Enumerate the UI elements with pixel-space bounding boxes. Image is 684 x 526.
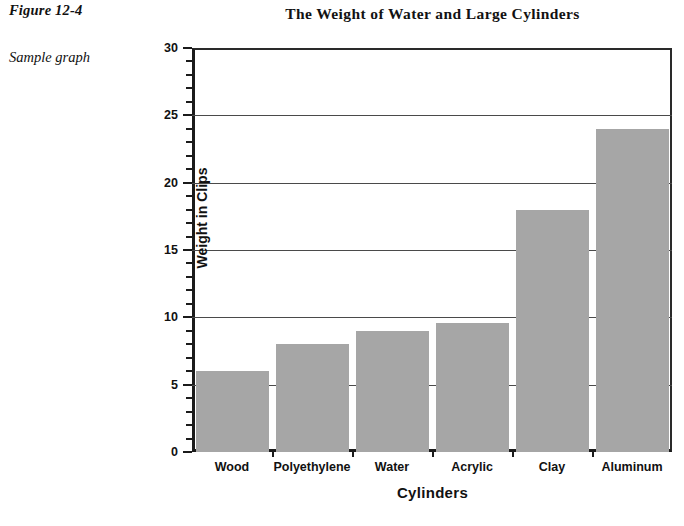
y-axis-minor-tick	[186, 195, 192, 197]
y-axis-minor-tick	[186, 370, 192, 372]
y-axis-minor-tick	[186, 424, 192, 426]
x-axis-tick-label: Acrylic	[451, 460, 493, 474]
gridline	[192, 115, 672, 116]
y-axis-minor-tick	[186, 87, 192, 89]
y-axis-tick	[183, 316, 192, 318]
x-axis-tick-label: Polyethylene	[273, 460, 350, 474]
y-axis-minor-tick	[186, 141, 192, 143]
bar	[436, 323, 509, 452]
sample-graph-note: Sample graph	[9, 49, 90, 66]
bar	[516, 210, 589, 452]
x-axis-tick-label: Wood	[215, 460, 249, 474]
chart-title: The Weight of Water and Large Cylinders	[192, 5, 673, 23]
y-axis-minor-tick	[186, 357, 192, 359]
y-axis-minor-tick	[186, 101, 192, 103]
x-axis-tick	[352, 452, 354, 457]
y-axis-minor-tick	[186, 289, 192, 291]
x-axis-tick	[272, 452, 274, 457]
y-axis-minor-tick	[186, 222, 192, 224]
y-axis-minor-tick	[186, 236, 192, 238]
y-axis-tick-label: 5	[171, 378, 178, 392]
y-axis-minor-tick	[186, 330, 192, 332]
x-axis-tick-label: Clay	[539, 460, 565, 474]
y-axis-tick	[183, 182, 192, 184]
bar-chart: 051015202530 WoodPolyethyleneWaterAcryli…	[192, 48, 672, 452]
y-axis-tick-label: 0	[171, 445, 178, 459]
y-axis-minor-tick	[186, 168, 192, 170]
x-axis-tick-label: Aluminum	[601, 460, 662, 474]
y-axis-minor-tick	[186, 411, 192, 413]
y-axis-tick	[183, 114, 192, 116]
y-axis-minor-tick	[186, 397, 192, 399]
figure-caption: Figure 12-4	[9, 2, 83, 19]
y-axis-tick-label: 25	[164, 108, 178, 122]
y-axis-minor-tick	[186, 303, 192, 305]
y-axis-tick	[183, 249, 192, 251]
y-axis-minor-tick	[186, 438, 192, 440]
x-axis-tick-label: Water	[375, 460, 409, 474]
y-axis-minor-tick	[186, 155, 192, 157]
y-axis-tick-label: 30	[164, 41, 178, 55]
y-axis-minor-tick	[186, 262, 192, 264]
bar	[356, 331, 429, 452]
x-axis-title: Cylinders	[192, 484, 673, 501]
y-axis-tick-label: 15	[164, 243, 178, 257]
y-axis-title: Weight in Clips	[194, 138, 210, 298]
y-axis-minor-tick	[186, 60, 192, 62]
y-axis-minor-tick	[186, 276, 192, 278]
bar	[196, 371, 269, 452]
y-axis-tick	[183, 384, 192, 386]
x-axis-tick	[432, 452, 434, 457]
y-axis-minor-tick	[186, 74, 192, 76]
y-axis-minor-tick	[186, 343, 192, 345]
y-axis-tick-label: 20	[164, 176, 178, 190]
y-axis-tick	[183, 451, 192, 453]
y-axis-minor-tick	[186, 128, 192, 130]
bar	[276, 344, 349, 452]
y-axis-tick	[183, 47, 192, 49]
bar	[596, 129, 669, 452]
y-axis-minor-tick	[186, 209, 192, 211]
x-axis-tick	[512, 452, 514, 457]
x-axis-tick	[592, 452, 594, 457]
y-axis-tick-label: 10	[164, 310, 178, 324]
